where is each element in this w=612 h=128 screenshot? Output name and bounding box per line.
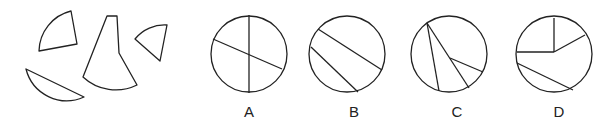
option-a-label: A bbox=[239, 103, 259, 120]
option-d-label: D bbox=[549, 103, 569, 120]
option-c-figure[interactable] bbox=[411, 16, 487, 92]
small-sector-piece bbox=[135, 25, 167, 61]
option-a-figure[interactable] bbox=[211, 15, 287, 93]
truncated-sector-piece bbox=[83, 16, 137, 90]
circular-segment-piece bbox=[26, 69, 84, 101]
option-c-label: C bbox=[447, 103, 467, 120]
option-b-figure[interactable] bbox=[309, 16, 385, 92]
quarter-sector-piece bbox=[39, 11, 77, 51]
pieces-group bbox=[26, 11, 167, 101]
puzzle-figure bbox=[0, 0, 612, 128]
option-d-figure[interactable] bbox=[516, 16, 592, 92]
option-b-label: B bbox=[344, 103, 364, 120]
